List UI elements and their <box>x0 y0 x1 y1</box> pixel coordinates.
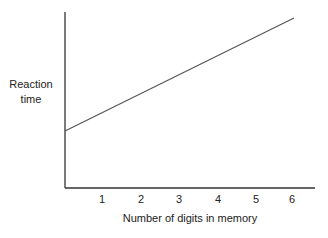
x-tick-4: 4 <box>215 193 221 205</box>
x-tick-5: 5 <box>253 193 259 205</box>
x-tick-3: 3 <box>176 193 182 205</box>
y-axis-label-line1: Reaction <box>4 77 58 92</box>
y-axis-label-line2: time <box>4 92 58 107</box>
line-chart: Reaction time 1 2 3 4 5 6 Number of digi… <box>0 0 328 238</box>
y-axis-label: Reaction time <box>4 77 58 107</box>
x-axis-label: Number of digits in memory <box>65 212 315 224</box>
data-line <box>65 18 294 131</box>
x-tick-1: 1 <box>99 193 105 205</box>
x-tick-2: 2 <box>138 193 144 205</box>
x-tick-6: 6 <box>289 193 295 205</box>
plot-area <box>0 0 328 238</box>
